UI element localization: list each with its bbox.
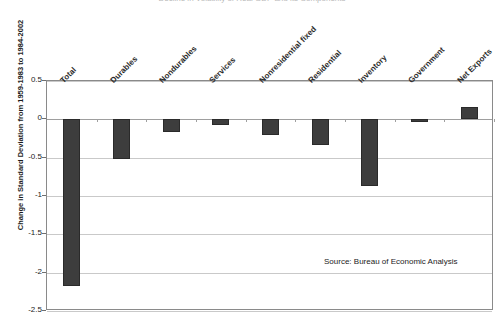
gridline bbox=[47, 196, 492, 197]
x-axis-tick-mark bbox=[345, 119, 346, 122]
bar-durables bbox=[113, 119, 130, 159]
bar-nonresidential-fixed bbox=[262, 119, 279, 135]
plot-area bbox=[46, 80, 493, 310]
y-axis-tick-label: 0 bbox=[2, 114, 42, 122]
y-axis-tick-label: -0.5 bbox=[2, 153, 42, 161]
x-axis-tick-mark bbox=[97, 119, 98, 122]
y-axis-tick-label: -1 bbox=[2, 191, 42, 199]
gridline bbox=[47, 311, 492, 312]
chart-title: Decline in Volatility of Real GDP and it… bbox=[0, 0, 504, 6]
x-axis-tick-mark bbox=[196, 119, 197, 122]
bar-nondurables bbox=[163, 119, 180, 132]
x-axis-tick-mark bbox=[295, 119, 296, 122]
chart-screenshot: Decline in Volatility of Real GDP and it… bbox=[0, 0, 504, 320]
y-axis-tick-label: 0.5 bbox=[2, 76, 42, 84]
source-note: Source: Bureau of Economic Analysis bbox=[324, 257, 457, 266]
gridline bbox=[47, 234, 492, 235]
y-axis-tick-mark bbox=[42, 310, 46, 311]
gridline bbox=[47, 273, 492, 274]
bar-services bbox=[212, 119, 229, 124]
x-axis-tick-mark bbox=[246, 119, 247, 122]
bar-residential bbox=[312, 119, 329, 145]
bar-government bbox=[411, 119, 428, 122]
y-axis-tick-label: -2.5 bbox=[2, 306, 42, 314]
x-axis-tick-mark bbox=[395, 119, 396, 122]
x-axis-tick-mark bbox=[494, 119, 495, 122]
x-axis-tick-mark bbox=[146, 119, 147, 122]
y-axis-tick-label: -2 bbox=[2, 268, 42, 276]
y-axis-title: Change in Standard Deviation from 1959-1… bbox=[16, 10, 30, 240]
x-axis-tick-mark bbox=[444, 119, 445, 122]
bar-total bbox=[63, 119, 80, 285]
x-axis-label-nondurables: Nondurables bbox=[158, 44, 199, 85]
bar-net-exports bbox=[461, 107, 478, 119]
y-axis-tick-label: -1.5 bbox=[2, 229, 42, 237]
bar-inventory bbox=[361, 119, 378, 186]
